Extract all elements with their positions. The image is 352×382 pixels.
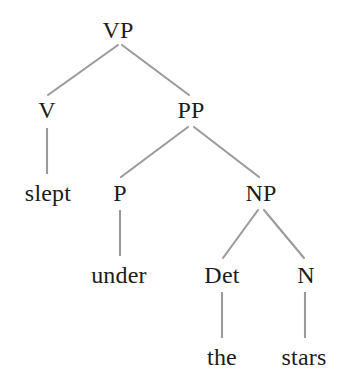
tree-node-n: N: [297, 262, 315, 288]
tree-node-np: NP: [245, 180, 276, 206]
edge-vp-to-pp: [122, 45, 189, 95]
tree-node-det: Det: [204, 262, 239, 288]
edge-np-to-n: [264, 210, 304, 258]
edge-pp-to-p: [121, 127, 188, 177]
tree-leaf-slept: slept: [25, 180, 71, 206]
tree-node-p: P: [113, 180, 127, 206]
edge-vp-to-v: [48, 45, 118, 95]
tree-leaf-the: the: [207, 344, 237, 370]
tree-leaf-under: under: [91, 262, 147, 288]
tree-leaf-stars: stars: [282, 344, 327, 370]
edge-pp-to-np: [194, 127, 259, 177]
tree-node-v: V: [38, 97, 56, 123]
edge-np-to-det: [223, 210, 258, 258]
tree-node-vp: VP: [102, 17, 133, 43]
tree-node-pp: PP: [177, 97, 204, 123]
syntax-tree-figure: VP V PP slept P NP under Det N the stars: [0, 0, 352, 382]
